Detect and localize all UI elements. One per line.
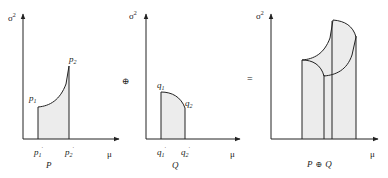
panel-q: σ2 q1 q2 q1' q2' μ Q	[129, 10, 240, 170]
p-y-label: σ2	[8, 12, 16, 23]
q2-prime-tick: q2'	[181, 146, 191, 158]
q-shaded-region	[161, 92, 185, 139]
panel-p: σ2 p2 p1 p1' p2' μ P	[8, 12, 119, 170]
sum-y-label: σ2	[256, 10, 264, 21]
q1-prime-tick: q1'	[157, 146, 167, 158]
q-title: Q	[172, 160, 179, 170]
sum-title: P⊕Q	[306, 159, 332, 169]
sum-shaded-region	[302, 20, 356, 139]
p-x-label: μ	[107, 149, 112, 159]
q2-point-label: q2	[185, 98, 193, 109]
q-y-label: σ2	[129, 10, 137, 21]
equals-operator: =	[247, 73, 253, 84]
p-title: P	[45, 160, 52, 170]
q1-point-label: q1	[157, 80, 165, 91]
oplus-operator: ⊕	[122, 76, 130, 86]
p1-prime-tick: p1'	[33, 146, 44, 158]
p1-point-label: p1	[28, 93, 37, 104]
p2-point-label: p2	[68, 54, 77, 65]
panel-sum: σ2 μ P⊕Q	[256, 10, 378, 169]
p2-prime-tick: p2'	[64, 146, 75, 158]
q-x-label: μ	[230, 149, 235, 159]
minkowski-sum-diagram: σ2 p2 p1 p1' p2' μ P ⊕ σ2 q1 q2 q1' q2' …	[0, 0, 388, 178]
sum-x-label: μ	[370, 149, 375, 159]
p-shaded-region	[38, 66, 69, 139]
